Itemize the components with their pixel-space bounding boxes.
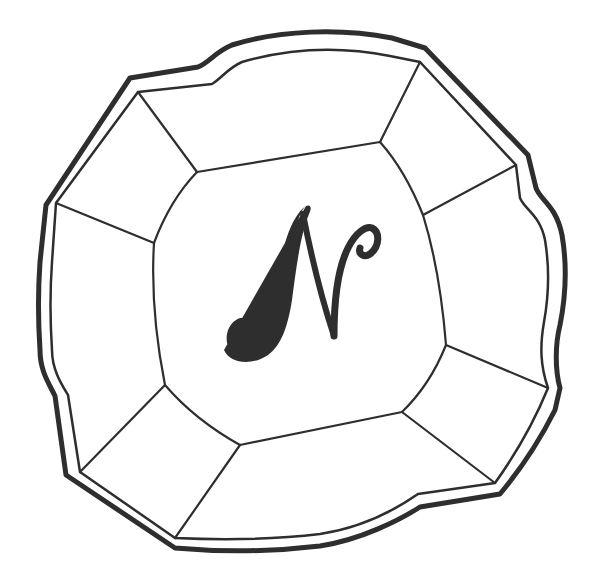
dish-drawing — [0, 0, 599, 586]
dish-illustration: N — [0, 0, 599, 586]
